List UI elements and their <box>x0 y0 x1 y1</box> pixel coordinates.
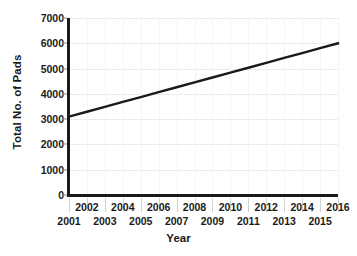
x-axis-tick-label: 2015 <box>308 216 331 227</box>
x-axis-tick-label: 2013 <box>273 216 296 227</box>
x-axis-tick-label: 2010 <box>219 202 242 213</box>
x-axis-tick-label: 2003 <box>93 216 116 227</box>
x-axis-tick-label: 2001 <box>57 216 80 227</box>
x-axis-tick-label: 2016 <box>326 202 349 213</box>
x-axis-tick-label: 2008 <box>183 202 206 213</box>
x-axis-tick-label: 2005 <box>129 216 152 227</box>
x-axis-tick-label: 2006 <box>147 202 170 213</box>
x-axis-tick-label: 2012 <box>255 202 278 213</box>
x-axis-title: Year <box>0 232 357 244</box>
x-axis-tick-label: 2009 <box>201 216 224 227</box>
x-axis-tick-label: 2011 <box>237 216 260 227</box>
x-axis-tick-label: 2004 <box>111 202 134 213</box>
x-axis-tick-label: 2002 <box>75 202 98 213</box>
chart-screenshot: Total No. of Pads 0100020003000400050006… <box>0 0 357 256</box>
x-axis-tick-label: 2014 <box>290 202 313 213</box>
x-axis-tick-label: 2007 <box>165 216 188 227</box>
x-axis-tick-labels: 2001200220032004200520062007200820092010… <box>0 0 357 256</box>
